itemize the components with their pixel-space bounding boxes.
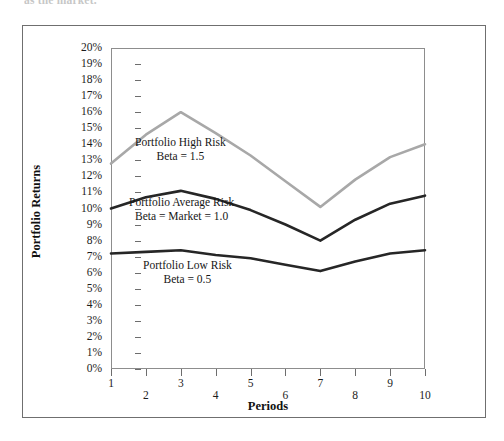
x-tick-mark xyxy=(111,369,112,376)
x-tick-mark xyxy=(425,369,426,376)
y-tick-label: 8% xyxy=(87,235,102,247)
annotation-portfolio-high-risk: Portfolio High Risk Beta = 1.5 xyxy=(135,136,226,163)
y-tick-label: 14% xyxy=(81,139,102,151)
x-tick-label: 9 xyxy=(387,378,393,390)
y-tick-label: 12% xyxy=(81,171,102,183)
x-tick-label: 5 xyxy=(248,378,254,390)
y-tick-label: 11% xyxy=(81,187,102,199)
y-tick-label: 9% xyxy=(87,219,102,231)
y-axis-title-text: Portfolio Returns xyxy=(30,164,45,257)
y-tick-label: 20% xyxy=(81,42,102,54)
x-tick-mark xyxy=(390,369,391,376)
x-tick-label: 7 xyxy=(317,378,323,390)
y-axis-tick-labels: 20%19%18%17%16%15%14%13%12%11%10%9%8%7%6… xyxy=(53,48,108,369)
x-tick-mark xyxy=(355,369,356,376)
x-tick-mark xyxy=(216,369,217,376)
annotation-subtitle: Beta = 0.5 xyxy=(143,273,232,287)
line-chart: Portfolio Returns 20%19%18%17%16%15%14%1… xyxy=(23,26,487,419)
y-tick-label: 13% xyxy=(81,155,102,167)
y-tick-label: 4% xyxy=(87,299,102,311)
annotation-title: Portfolio Average Risk xyxy=(129,196,234,208)
y-tick-label: 7% xyxy=(87,251,102,263)
y-axis-title: Portfolio Returns xyxy=(27,126,47,296)
x-axis-title: Periods xyxy=(111,399,425,414)
y-tick-label: 18% xyxy=(81,74,102,86)
y-tick-label: 17% xyxy=(81,90,102,102)
y-tick-label: 5% xyxy=(87,283,102,295)
x-tick-mark xyxy=(181,369,182,376)
y-tick-label: 1% xyxy=(87,347,102,359)
annotation-portfolio-low-risk: Portfolio Low Risk Beta = 0.5 xyxy=(143,259,232,286)
x-tick-mark xyxy=(251,369,252,376)
y-tick-label: 10% xyxy=(81,203,102,215)
y-tick-label: 2% xyxy=(87,331,102,343)
annotation-subtitle: Beta = Market = 1.0 xyxy=(129,210,234,224)
y-tick-label: 15% xyxy=(81,123,102,135)
y-tick-label: 16% xyxy=(81,106,102,118)
y-tick-label: 19% xyxy=(81,58,102,70)
figure-frame: Portfolio Returns 20%19%18%17%16%15%14%1… xyxy=(22,25,486,418)
y-tick-label: 6% xyxy=(87,267,102,279)
annotation-title: Portfolio High Risk xyxy=(135,136,226,148)
x-tick-mark xyxy=(320,369,321,376)
y-tick-label: 0% xyxy=(87,363,102,375)
x-tick-label: 1 xyxy=(108,378,114,390)
y-tick-label: 3% xyxy=(87,315,102,327)
page-caption-fragment: as the market. xyxy=(24,0,97,6)
annotation-subtitle: Beta = 1.5 xyxy=(135,150,226,164)
annotation-portfolio-average-risk: Portfolio Average Risk Beta = Market = 1… xyxy=(129,196,234,223)
x-tick-label: 3 xyxy=(178,378,184,390)
x-tick-mark xyxy=(285,369,286,376)
annotation-title: Portfolio Low Risk xyxy=(143,259,232,271)
x-tick-mark xyxy=(146,369,147,376)
